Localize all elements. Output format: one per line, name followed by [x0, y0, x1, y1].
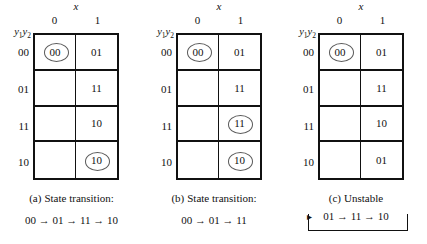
y1-label: y1	[299, 26, 307, 37]
y2-label: y2	[23, 26, 31, 37]
stable-state-value: 10	[234, 154, 245, 166]
next-state-value: 01	[376, 46, 387, 58]
next-state-value: 11	[234, 82, 245, 94]
table-cell: 10	[76, 107, 117, 141]
x-axis-label: x	[74, 1, 79, 12]
table-row: 0001	[320, 35, 402, 71]
state-variable-label: y1y2	[145, 26, 174, 41]
row-header-11: 11	[0, 120, 29, 132]
figure-board: x01y1y2000111100001111010(a)State transi…	[0, 0, 427, 244]
state-sequence-c: 01 → 11 → 10	[285, 210, 427, 223]
table-cell: 11	[361, 71, 402, 105]
column-header-1: 1	[361, 14, 404, 26]
table-cell: 01	[76, 35, 117, 69]
next-state-value: 11	[91, 82, 102, 94]
table-row: 01	[320, 142, 402, 178]
caption-line-c: (c)Unstable	[285, 192, 427, 205]
row-header-10: 10	[285, 156, 314, 168]
table-row: 10	[178, 142, 260, 178]
table-cell	[178, 107, 219, 141]
table-row: 0001	[178, 35, 260, 71]
table-cell: 11	[219, 71, 260, 105]
table-cell: 01	[219, 35, 260, 69]
table-cell	[320, 142, 361, 178]
table-cell	[35, 71, 76, 105]
transition-table: 0001111110	[176, 33, 262, 180]
next-state-value: 11	[376, 82, 387, 94]
state-sequence-a: 00 → 01 → 11 → 10	[0, 214, 143, 227]
column-header-0: 0	[176, 14, 219, 26]
y2-label: y2	[308, 26, 316, 37]
row-header-10: 10	[0, 156, 29, 168]
row-header-01: 01	[143, 83, 172, 95]
caption-tag: (a)	[29, 192, 41, 204]
column-header-group: x01	[33, 0, 119, 33]
row-header-10: 10	[143, 156, 172, 168]
table-row: 11	[320, 71, 402, 107]
caption-line-b: (b)State transition:	[143, 192, 285, 205]
table-cell: 01	[361, 35, 402, 69]
next-state-value: 10	[376, 117, 387, 129]
x-axis-label: x	[359, 1, 364, 12]
column-header-0: 0	[318, 14, 361, 26]
column-header-group: x01	[318, 0, 404, 33]
row-header-01: 01	[0, 83, 29, 95]
table-cell	[178, 71, 219, 105]
table-cell	[320, 71, 361, 105]
column-header-0: 0	[33, 14, 76, 26]
y1-label: y1	[14, 26, 22, 37]
y1-label: y1	[157, 26, 165, 37]
column-header-1: 1	[76, 14, 119, 26]
row-header-11: 11	[143, 120, 172, 132]
table-cell: 11	[219, 107, 260, 141]
row-header-11: 11	[285, 120, 314, 132]
state-variable-label: y1y2	[2, 26, 31, 41]
panel-c: x01y1y2000111100001111001(c)Unstable▸01 …	[285, 0, 427, 244]
next-state-value: 01	[91, 46, 102, 58]
table-cell: 01	[361, 142, 402, 178]
next-state-value: 01	[234, 46, 245, 58]
table-cell: 11	[76, 71, 117, 105]
table-row: 11	[178, 107, 260, 143]
stable-state-value: 00	[335, 46, 346, 58]
table-cell	[178, 142, 219, 178]
caption-line-a: (a)State transition:	[0, 192, 143, 205]
table-cell: 10	[76, 142, 117, 178]
caption-tag: (c)	[329, 192, 341, 204]
state-sequence-b: 00 → 01 → 11	[143, 214, 285, 227]
table-cell	[35, 142, 76, 178]
transition-table: 0001111010	[33, 33, 119, 180]
next-state-value: 10	[91, 117, 102, 129]
row-header-01: 01	[285, 83, 314, 95]
row-header-00: 00	[143, 46, 172, 58]
table-row: 11	[35, 71, 117, 107]
stable-state-value: 00	[193, 46, 204, 58]
transition-table: 0001111001	[318, 33, 404, 180]
column-header-group: x01	[176, 0, 262, 33]
stable-state-value: 00	[50, 46, 61, 58]
caption-text: Unstable	[344, 192, 383, 204]
table-row: 0001	[35, 35, 117, 71]
caption-tag: (b)	[171, 192, 184, 204]
row-header-00: 00	[285, 46, 314, 58]
caption-text: State transition:	[44, 192, 113, 204]
table-row: 10	[35, 107, 117, 143]
table-row: 11	[178, 71, 260, 107]
next-state-value: 01	[376, 154, 387, 166]
column-header-1: 1	[219, 14, 262, 26]
state-variable-label: y1y2	[287, 26, 316, 41]
panel-b: x01y1y2000111100001111110(b)State transi…	[143, 0, 285, 244]
x-axis-label: x	[217, 1, 222, 12]
table-row: 10	[35, 142, 117, 178]
table-cell: 00	[35, 35, 76, 69]
table-cell	[35, 107, 76, 141]
table-cell	[320, 107, 361, 141]
table-cell: 00	[320, 35, 361, 69]
panel-a: x01y1y2000111100001111010(a)State transi…	[0, 0, 143, 244]
table-cell: 10	[219, 142, 260, 178]
row-header-00: 00	[0, 46, 29, 58]
caption-text: State transition:	[187, 192, 256, 204]
table-row: 10	[320, 107, 402, 143]
stable-state-value: 11	[234, 117, 245, 129]
stable-state-value: 10	[91, 154, 102, 166]
